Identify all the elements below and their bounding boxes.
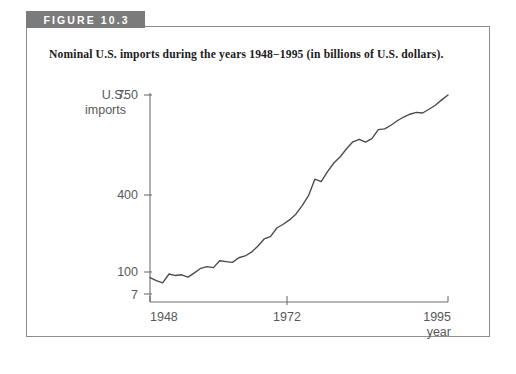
figure-number-label: FIGURE 10.3: [41, 14, 129, 26]
figure-root: FIGURE 10.3 Nominal U.S. imports during …: [0, 0, 516, 374]
figure-number-tab: FIGURE 10.3: [26, 11, 145, 28]
figure-caption: Nominal U.S. imports during the years 19…: [49, 48, 459, 61]
figure-frame: [26, 26, 490, 337]
